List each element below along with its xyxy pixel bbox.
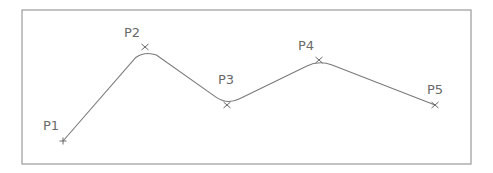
point-label-p1: P1 <box>43 118 59 133</box>
point-label-p4: P4 <box>298 38 314 53</box>
spline-curve <box>63 54 435 141</box>
x-marker-icon <box>316 57 323 63</box>
drawing-frame <box>22 10 471 164</box>
x-marker-icon <box>432 102 439 108</box>
point-label-p5: P5 <box>427 82 443 97</box>
curve-diagram: P1 P2 P3 P4 P5 <box>0 0 493 173</box>
x-marker-icon <box>224 102 231 108</box>
point-label-p3: P3 <box>218 72 234 87</box>
point-labels: P1 P2 P3 P4 P5 <box>43 25 443 133</box>
point-label-p2: P2 <box>124 25 140 40</box>
x-marker-icon <box>142 44 149 50</box>
